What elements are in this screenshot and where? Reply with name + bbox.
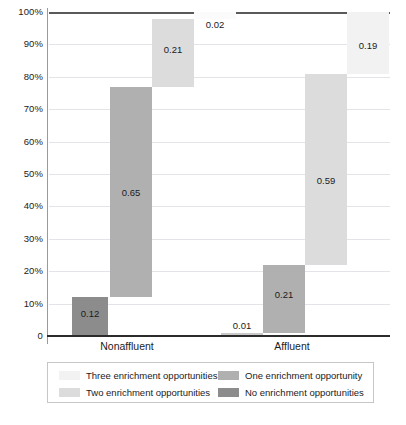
legend-item-one-enrichment[interactable]: One enrichment opportunity xyxy=(218,368,362,382)
y-axis: 100% 90% 80% 70% 60% 50% 40% 30% 20% 10%… xyxy=(0,0,43,356)
bar-label-affluent-one-enrichment: 0.21 xyxy=(263,289,305,300)
gridline-20 xyxy=(49,271,390,272)
legend-label-two-enrichment: Two enrichment opportunities xyxy=(86,387,210,398)
figure-container: 100% 90% 80% 70% 60% 50% 40% 30% 20% 10%… xyxy=(0,0,406,425)
y-tick-60: 60% xyxy=(0,137,43,147)
legend-grid: Three enrichment opportunities Two enric… xyxy=(48,363,373,402)
legend-label-one-enrichment: One enrichment opportunity xyxy=(245,370,362,381)
y-tick-70: 70% xyxy=(0,104,43,114)
legend-item-two-enrichment[interactable]: Two enrichment opportunities xyxy=(59,385,210,399)
bar-label-nonaffluent-no-enrichment: 0.12 xyxy=(72,308,108,319)
y-tick-80: 80% xyxy=(0,72,43,82)
bar-label-affluent-three-enrichment: 0.19 xyxy=(347,40,389,51)
y-tick-100: 100% xyxy=(0,7,43,17)
y-tick-40: 40% xyxy=(0,201,43,211)
legend-swatch-three-enrichment-icon xyxy=(59,371,80,380)
plot-area: 0.12 0.65 0.21 0.02 0.01 0.21 0.59 0.19 xyxy=(49,12,390,336)
y-tick-20: 20% xyxy=(0,266,43,276)
bar-label-nonaffluent-three-enrichment: 0.02 xyxy=(194,19,236,30)
bar-label-nonaffluent-one-enrichment: 0.65 xyxy=(110,187,152,198)
y-tick-50: 50% xyxy=(0,169,43,179)
legend-swatch-two-enrichment-icon xyxy=(59,388,80,397)
y-tick-90: 90% xyxy=(0,39,43,49)
x-category-nonaffluent: Nonaffluent xyxy=(57,340,197,353)
legend-label-three-enrichment: Three enrichment opportunities xyxy=(86,370,218,381)
x-category-affluent: Affluent xyxy=(222,340,362,353)
legend-item-three-enrichment[interactable]: Three enrichment opportunities xyxy=(59,368,218,382)
legend-item-no-enrichment[interactable]: No enrichment opportunities xyxy=(218,385,364,399)
bar-affluent-two-enrichment[interactable] xyxy=(305,74,347,265)
legend-label-no-enrichment: No enrichment opportunities xyxy=(245,387,364,398)
x-axis-line xyxy=(47,335,390,337)
bar-label-affluent-no-enrichment: 0.01 xyxy=(221,320,263,331)
gridline-90 xyxy=(49,44,390,45)
y-tick-0: 0 xyxy=(0,331,43,341)
chart-legend: Three enrichment opportunities Two enric… xyxy=(47,362,374,403)
y-axis-line xyxy=(47,8,48,344)
legend-swatch-no-enrichment-icon xyxy=(218,388,239,397)
legend-swatch-one-enrichment-icon xyxy=(218,371,239,380)
chart-plot: 100% 90% 80% 70% 60% 50% 40% 30% 20% 10%… xyxy=(0,0,406,356)
bar-label-nonaffluent-two-enrichment: 0.21 xyxy=(152,44,194,55)
bar-nonaffluent-three-enrichment[interactable] xyxy=(194,12,236,19)
bar-label-affluent-two-enrichment: 0.59 xyxy=(305,175,347,186)
y-tick-10: 10% xyxy=(0,299,43,309)
y-tick-30: 30% xyxy=(0,234,43,244)
